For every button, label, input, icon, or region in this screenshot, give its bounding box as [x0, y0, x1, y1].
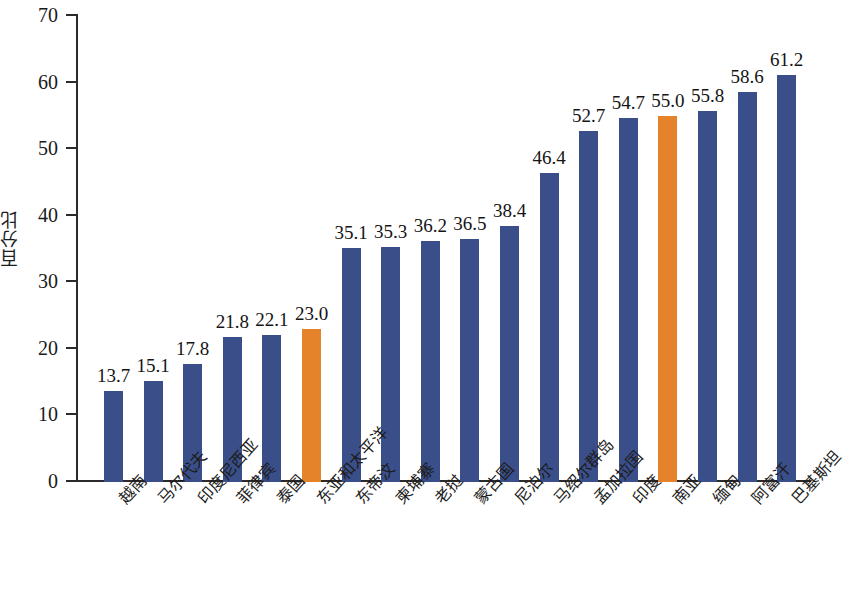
- bar-value-label: 55.8: [684, 86, 732, 105]
- y-tick-label: 0: [0, 471, 58, 491]
- bar[interactable]: [421, 241, 440, 482]
- bar[interactable]: [500, 226, 519, 482]
- bar-value-label: 46.4: [525, 148, 573, 167]
- bar-value-label: 58.6: [723, 67, 771, 86]
- bar[interactable]: [619, 118, 638, 482]
- bar[interactable]: [302, 329, 321, 482]
- bar[interactable]: [579, 131, 598, 482]
- y-tick-label: 40: [0, 205, 58, 225]
- y-tick-label: 60: [0, 72, 58, 92]
- y-tick-label: 70: [0, 5, 58, 25]
- bar[interactable]: [777, 75, 796, 482]
- bar[interactable]: [460, 239, 479, 482]
- y-tick-label: 30: [0, 271, 58, 291]
- y-tick-label: 10: [0, 404, 58, 424]
- y-tick-label: 50: [0, 138, 58, 158]
- bar[interactable]: [698, 111, 717, 482]
- bar-value-label: 15.1: [129, 356, 177, 375]
- bar[interactable]: [381, 247, 400, 482]
- bar[interactable]: [738, 92, 757, 482]
- bar-value-label: 23.0: [288, 304, 336, 323]
- bar[interactable]: [104, 391, 123, 482]
- bar[interactable]: [540, 173, 559, 482]
- bar[interactable]: [144, 381, 163, 482]
- bar[interactable]: [658, 116, 677, 482]
- bar-value-label: 38.4: [486, 201, 534, 220]
- bar-value-label: 61.2: [763, 50, 811, 69]
- bar-value-label: 17.8: [169, 339, 217, 358]
- y-tick-label: 20: [0, 338, 58, 358]
